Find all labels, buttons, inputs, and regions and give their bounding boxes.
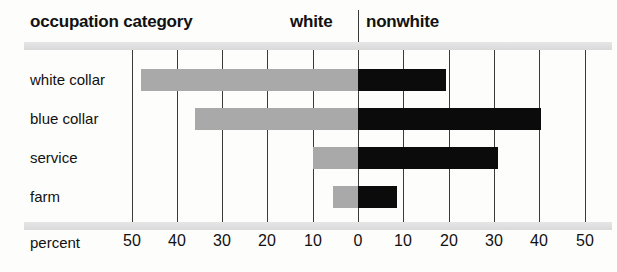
bar-nonwhite-white-collar xyxy=(358,69,446,91)
x-axis: percent 504030201001020304050 xyxy=(0,232,617,260)
bar-white-white-collar xyxy=(141,69,358,91)
category-label-service: service xyxy=(30,149,78,166)
category-label-blue-collar: blue collar xyxy=(30,110,98,127)
gridline-50-right xyxy=(585,50,586,222)
x-axis-tick-label: 20 xyxy=(432,232,466,250)
x-axis-tick-label: 30 xyxy=(477,232,511,250)
x-axis-tick-label: 10 xyxy=(296,232,330,250)
category-label-farm: farm xyxy=(30,188,60,205)
x-axis-tick-label: 40 xyxy=(522,232,556,250)
chart-container: occupation category white nonwhite white… xyxy=(0,0,617,272)
x-axis-tick-label: 10 xyxy=(386,232,420,250)
gridline-20-right xyxy=(449,50,450,222)
zero-axis-divider-line xyxy=(358,10,359,42)
x-axis-tick-label: 50 xyxy=(115,232,149,250)
legend-label-white: white xyxy=(290,12,332,32)
gridline-40-right xyxy=(539,50,540,222)
top-axis-rail xyxy=(24,42,612,50)
bar-white-blue-collar xyxy=(195,108,358,130)
x-axis-tick-label: 30 xyxy=(205,232,239,250)
bar-white-service xyxy=(313,147,358,169)
gridline-30-right xyxy=(494,50,495,222)
category-label-white-collar: white collar xyxy=(30,71,105,88)
bottom-axis-rail xyxy=(24,222,612,230)
x-axis-tick-label: 20 xyxy=(250,232,284,250)
bar-nonwhite-farm xyxy=(358,186,397,208)
x-axis-caption: percent xyxy=(30,234,80,251)
bar-nonwhite-service xyxy=(358,147,498,169)
chart-title-occupation-category: occupation category xyxy=(30,12,192,32)
bar-nonwhite-blue-collar xyxy=(358,108,541,130)
x-axis-tick-label: 50 xyxy=(568,232,602,250)
bar-white-farm xyxy=(333,186,358,208)
gridline-50-left xyxy=(132,50,133,222)
legend-label-nonwhite: nonwhite xyxy=(366,12,439,32)
x-axis-tick-label: 0 xyxy=(341,232,375,250)
x-axis-tick-label: 40 xyxy=(160,232,194,250)
